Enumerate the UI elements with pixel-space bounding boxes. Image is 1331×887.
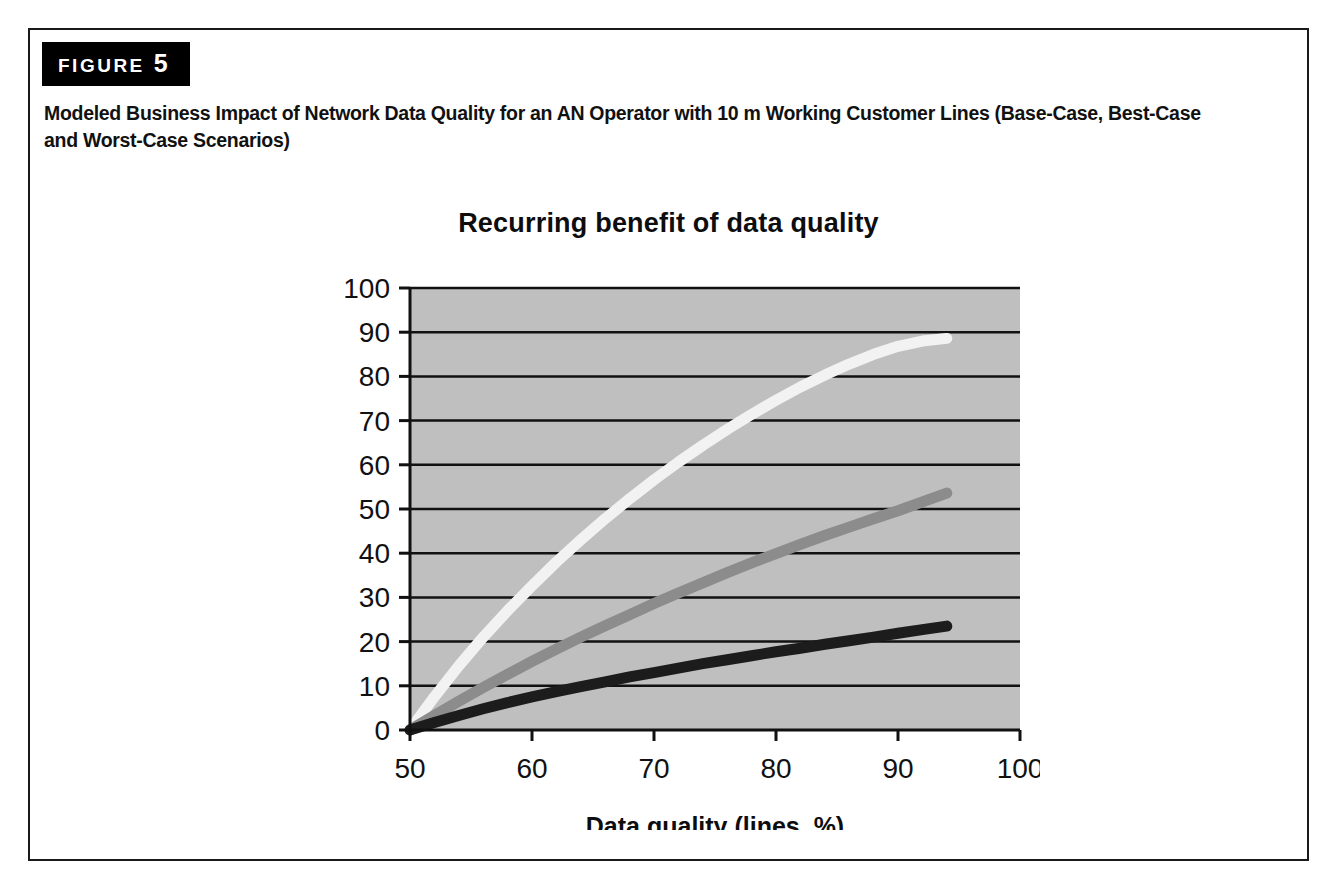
y-tick-label: 0 <box>374 715 390 746</box>
x-tick-label: 50 <box>394 753 425 784</box>
axis-title-x: Data quality (lines, %) <box>586 812 844 830</box>
chart-area: Recurring benefit of data quality 010203… <box>30 170 1307 860</box>
y-tick-label: 60 <box>359 450 390 481</box>
x-tick-label: 70 <box>638 753 669 784</box>
y-tick-label: 50 <box>359 494 390 525</box>
chart-plot: 01020304050607080901005060708090100 Data… <box>280 270 1040 830</box>
y-tick-label: 90 <box>359 317 390 348</box>
y-tick-label: 40 <box>359 538 390 569</box>
y-tick-label: 80 <box>359 361 390 392</box>
y-tick-label: 30 <box>359 582 390 613</box>
y-tick-label: 20 <box>359 627 390 658</box>
x-axis-title: Data quality (lines, %) <box>586 812 844 830</box>
x-tick-label: 80 <box>760 753 791 784</box>
figure-badge: FIGURE 5 <box>42 42 190 86</box>
figure-badge-word: FIGURE <box>58 55 145 77</box>
y-tick-label: 10 <box>359 671 390 702</box>
chart-title: Recurring benefit of data quality <box>30 208 1307 239</box>
y-tick-label: 100 <box>343 273 390 304</box>
y-tick-label: 70 <box>359 406 390 437</box>
figure-badge-number: 5 <box>154 49 168 78</box>
figure-frame: FIGURE 5 Modeled Business Impact of Netw… <box>28 28 1309 861</box>
x-tick-label: 100 <box>997 753 1040 784</box>
figure-caption: Modeled Business Impact of Network Data … <box>44 100 1204 154</box>
x-tick-label: 90 <box>882 753 913 784</box>
x-tick-label: 60 <box>516 753 547 784</box>
